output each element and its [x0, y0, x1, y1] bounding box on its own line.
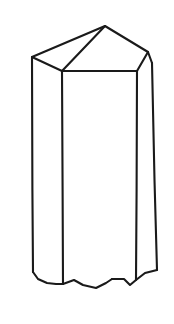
crystal-drawing [0, 0, 174, 324]
face-left-body [32, 57, 63, 284]
edge-left-vertical [32, 57, 33, 272]
crystal-figure [0, 0, 174, 324]
edge-front-right-vertical [136, 71, 137, 280]
edge-front-center-vertical [62, 71, 63, 284]
face-front-body [62, 71, 137, 284]
